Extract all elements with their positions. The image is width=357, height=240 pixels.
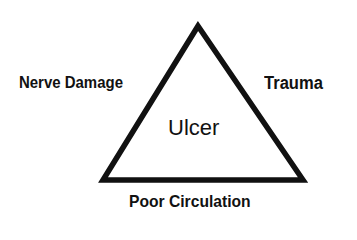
triangle-shape — [103, 26, 303, 180]
label-poor-circulation: Poor Circulation — [129, 192, 251, 212]
label-nerve-damage: Nerve Damage — [19, 73, 123, 93]
label-ulcer: Ulcer — [168, 115, 219, 141]
label-trauma: Trauma — [264, 73, 323, 94]
